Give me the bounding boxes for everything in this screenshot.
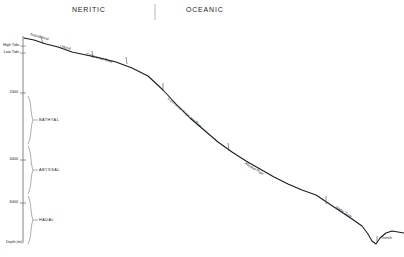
zone-bracket-bathyal bbox=[28, 96, 33, 144]
region-label-neritic: NERITIC bbox=[72, 6, 106, 13]
depth-label-2000: 2000 bbox=[2, 90, 18, 94]
depth-label-6000: 6000 bbox=[2, 200, 18, 204]
depth-label-4000: 4000 bbox=[2, 157, 18, 161]
tide-label-low: Low Tide bbox=[1, 50, 19, 54]
ocean-profile-diagram: NERITIC OCEANIC 2000 4000 6000 High Tide… bbox=[0, 0, 404, 257]
profile-vector-layer bbox=[0, 0, 404, 257]
zone-bracket-abyssal bbox=[28, 146, 33, 194]
feature-tick-shelf-start bbox=[126, 57, 127, 64]
zone-label-abyssal: ABYSSAL bbox=[39, 168, 60, 172]
zone-label-hadal: HADAL bbox=[39, 218, 54, 222]
depth-axis-caption: Depth (m) bbox=[6, 240, 22, 244]
feature-label-trench: Trench bbox=[381, 236, 392, 240]
tide-label-high: High Tide bbox=[1, 43, 19, 47]
region-label-oceanic: OCEANIC bbox=[186, 6, 224, 13]
zone-label-bathyal: BATHYAL bbox=[39, 118, 59, 122]
zone-bracket-hadal bbox=[28, 196, 33, 244]
